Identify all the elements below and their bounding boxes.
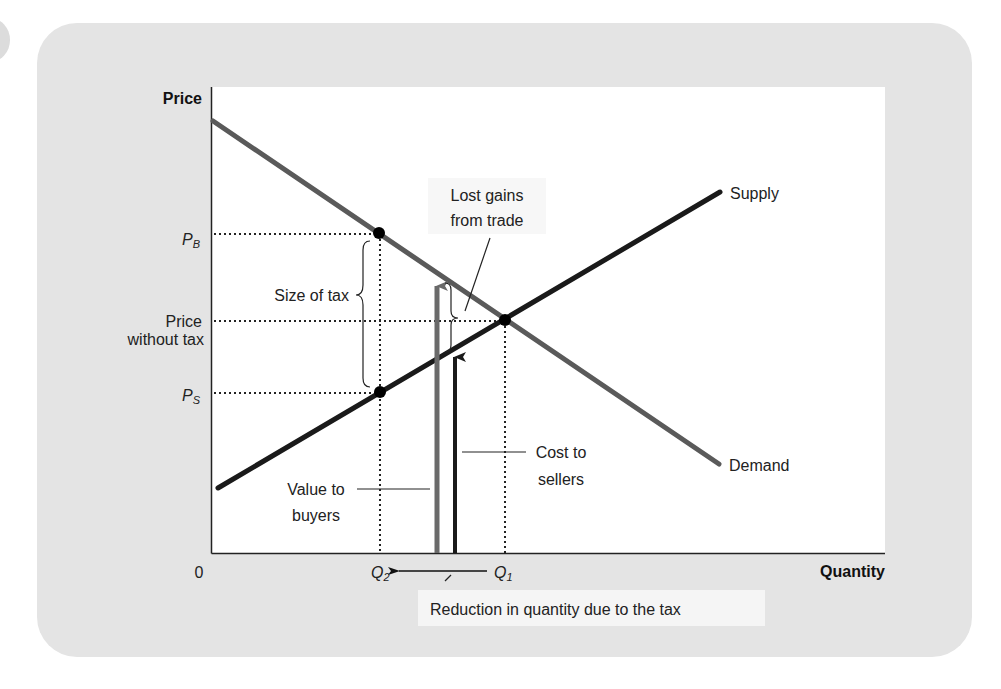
ps-sub: S (193, 394, 201, 406)
x-axis-label: Quantity (820, 563, 885, 580)
supply-curve (218, 192, 720, 488)
pb-label: PB (182, 231, 200, 250)
q2-sub: 2 (382, 571, 389, 583)
q2-label: Q2 (371, 564, 390, 583)
seller-price-point (374, 386, 386, 398)
equilibrium-point (499, 314, 511, 326)
q1-label: Q1 (494, 564, 513, 583)
ps-main: P (182, 387, 193, 404)
reduction-callout-line (445, 575, 451, 581)
tax-deadweight-chart: Price Quantity 0 PB Price without tax PS… (0, 0, 1001, 689)
price-without-tax-label-2: without tax (127, 331, 204, 348)
pb-sub: B (193, 238, 200, 250)
figure: Price Quantity 0 PB Price without tax PS… (0, 0, 1001, 689)
origin-label: 0 (195, 564, 204, 581)
q2-main: Q (371, 564, 383, 581)
size-of-tax-label: Size of tax (274, 287, 349, 304)
y-axis-label: Price (163, 90, 202, 107)
demand-label: Demand (729, 457, 789, 474)
lost-gains-label-1: Lost gains (451, 187, 524, 204)
lost-gains-label-2: from trade (451, 212, 524, 229)
value-to-buyers-label-2: buyers (292, 507, 340, 524)
pb-main: P (182, 231, 193, 248)
reduction-label: Reduction in quantity due to the tax (430, 601, 681, 618)
price-without-tax-label-1: Price (166, 313, 203, 330)
ps-label: PS (182, 387, 201, 406)
buyer-price-point (373, 227, 385, 239)
size-of-tax-brace (356, 241, 370, 387)
cost-to-sellers-label-2: sellers (538, 471, 584, 488)
lost-gains-brace (445, 283, 458, 352)
cost-to-sellers-label-1: Cost to (536, 444, 587, 461)
q1-sub: 1 (506, 571, 512, 583)
q1-main: Q (494, 564, 506, 581)
value-to-buyers-label-1: Value to (287, 481, 345, 498)
guide-lines (214, 234, 505, 553)
supply-label: Supply (730, 185, 779, 202)
